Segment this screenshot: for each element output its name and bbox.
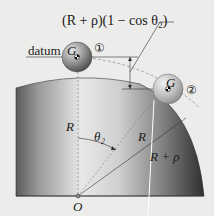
ball1-position-marker: ①	[94, 42, 105, 54]
ball1-G-label: G	[67, 44, 76, 57]
origin-point	[76, 194, 80, 198]
ball2-position-marker: ②	[186, 84, 197, 96]
angle-label: θ₂	[94, 130, 105, 143]
diagram-graphic	[0, 0, 214, 216]
radius-plus-rho-label: R + ρ	[150, 150, 179, 163]
formula-leader	[130, 22, 174, 72]
ball2-G-label: G	[166, 76, 175, 89]
datum-label: datum	[28, 44, 61, 57]
angled-radius-label: R	[138, 130, 146, 143]
vertical-radius-label: R	[66, 120, 74, 133]
diagram: (R + ρ)(1 − cos θ₂) datum G ① G ② R θ₂ R…	[0, 0, 214, 216]
origin-label: O	[73, 200, 82, 213]
formula-label: (R + ρ)(1 − cos θ₂)	[62, 14, 168, 28]
